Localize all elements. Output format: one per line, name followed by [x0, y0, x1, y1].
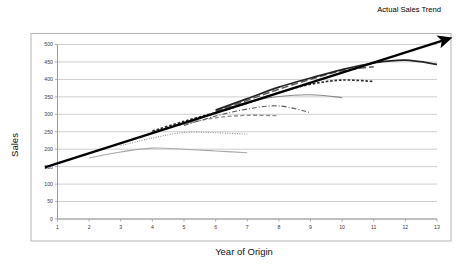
y-tick-label-500: 500 [44, 41, 53, 47]
x-tick-label-11: 11 [371, 224, 376, 230]
x-tick-label-5: 5 [183, 224, 186, 230]
chart-figure: 050100150200250300350400450500 123456789… [0, 0, 463, 271]
x-tick-label-9: 9 [309, 224, 312, 230]
x-tick-label-10: 10 [339, 224, 345, 230]
y-axis-title: Sales [9, 133, 20, 157]
sales-trend-line-chart: 050100150200250300350400450500 123456789… [0, 0, 463, 271]
y-tick-label-200: 200 [44, 146, 53, 152]
x-tick-label-3: 3 [119, 224, 122, 230]
x-axis-title: Year of Origin [215, 246, 273, 257]
x-tick-label-7: 7 [246, 224, 249, 230]
x-tick-label-6: 6 [214, 224, 217, 230]
actual-sales-trend-label: Actual Sales Trend [377, 5, 441, 14]
y-tick-label-50: 50 [47, 198, 53, 204]
y-tick-label-450: 450 [44, 59, 53, 65]
x-tick-label-2: 2 [88, 224, 91, 230]
y-tick-label-100: 100 [44, 181, 53, 187]
y-tick-label-300: 300 [44, 111, 53, 117]
y-tick-label-350: 350 [44, 94, 53, 100]
y-tick-label-250: 250 [44, 129, 53, 135]
x-tick-label-12: 12 [402, 224, 408, 230]
x-tick-label-8: 8 [277, 224, 280, 230]
x-tick-label-1: 1 [56, 224, 59, 230]
x-tick-label-13: 13 [434, 224, 440, 230]
y-tick-label-0: 0 [50, 216, 53, 222]
x-tick-label-4: 4 [151, 224, 154, 230]
y-tick-label-400: 400 [44, 76, 53, 82]
